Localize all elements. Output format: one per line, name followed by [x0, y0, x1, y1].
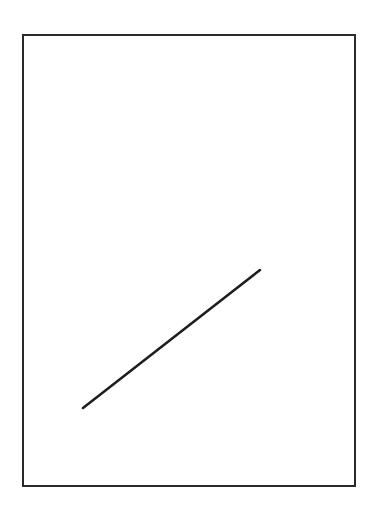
diagonal-line-segment — [83, 270, 260, 408]
frame-rectangle — [23, 35, 355, 486]
diagram-canvas — [0, 0, 382, 514]
